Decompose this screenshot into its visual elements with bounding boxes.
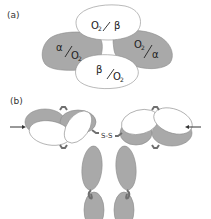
svg-text:β: β <box>96 64 102 75</box>
hemoglobin-tetramer: O 2 β α O 2 O 2 α β O 2 <box>42 5 172 89</box>
svg-text:2: 2 <box>98 25 102 32</box>
fab-arm-right <box>115 103 196 148</box>
disulfide-bond-label: S-S <box>101 132 113 140</box>
svg-text:α: α <box>152 49 159 60</box>
antibody-structure: S-S <box>10 103 201 219</box>
svg-text:β: β <box>114 20 120 31</box>
left-arrow-icon <box>10 125 26 129</box>
svg-text:2: 2 <box>141 44 145 51</box>
fc-region <box>80 145 138 219</box>
fab-arm-left <box>25 106 99 149</box>
svg-text:2: 2 <box>78 55 82 62</box>
subunit-beta-bottom <box>76 55 139 89</box>
subunit-beta-top <box>76 5 140 40</box>
diagram-canvas: O 2 β α O 2 O 2 α β O 2 <box>0 0 211 219</box>
svg-text:α: α <box>56 42 63 53</box>
svg-text:2: 2 <box>120 76 124 83</box>
